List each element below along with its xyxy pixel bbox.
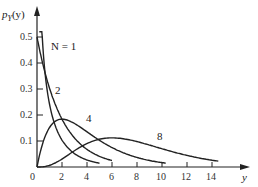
y-tick-label: 0.5 <box>20 31 33 42</box>
y-tick-label: 0.3 <box>20 83 33 94</box>
y-axis-label: pY(y) <box>1 8 25 23</box>
x-tick-label: 2 <box>59 171 64 182</box>
x-tick-label: 4 <box>84 171 89 182</box>
y-tick-label: 0.4 <box>20 57 33 68</box>
curve-label-4: 4 <box>86 112 92 124</box>
curve-label-2: 2 <box>55 84 61 96</box>
x-tick-label: 6 <box>109 171 114 182</box>
curves <box>37 32 218 167</box>
y-axis-arrow-icon <box>34 6 40 16</box>
origin-label: 0 <box>30 171 35 182</box>
x-axis-label: y <box>241 171 247 183</box>
x-ticks: 2468101214 <box>59 162 216 182</box>
curve-label-8: 8 <box>157 130 163 142</box>
x-axis-arrow-icon <box>240 164 250 170</box>
x-tick-label: 10 <box>156 171 166 182</box>
x-tick-label: 14 <box>206 171 216 182</box>
x-tick-label: 8 <box>134 171 139 182</box>
x-tick-label: 12 <box>181 171 191 182</box>
chart: 0.10.20.30.40.5 2468101214 0 pY(y) y N =… <box>0 0 258 187</box>
curve-4 <box>37 119 166 167</box>
y-tick-label: 0.1 <box>20 135 33 146</box>
y-tick-label: 0.2 <box>20 109 33 120</box>
curve-label-n1: N = 1 <box>51 40 76 52</box>
